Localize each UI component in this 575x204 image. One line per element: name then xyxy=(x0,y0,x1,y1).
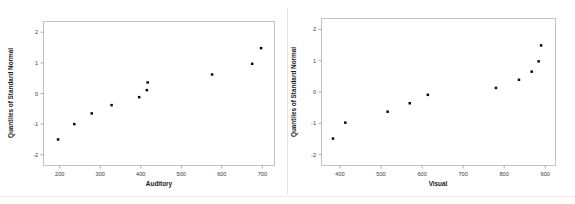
data-point-marker xyxy=(146,89,149,92)
data-point-marker xyxy=(138,96,141,99)
x-tick-label-auditory: 400 xyxy=(136,171,145,177)
data-point-marker xyxy=(495,87,498,90)
data-point-marker xyxy=(73,123,76,126)
plot-frame-visual xyxy=(322,19,556,166)
data-point-marker xyxy=(332,137,335,140)
x-tick-label-auditory: 200 xyxy=(55,171,64,177)
data-point-marker xyxy=(386,110,389,113)
data-point-marker xyxy=(540,44,543,47)
chart-panel-visual: 400500600700800900 -2-1012 Visual Quanti… xyxy=(287,0,575,204)
x-axis-title-auditory: Auditory xyxy=(146,180,173,188)
y-tick-label-visual: 2 xyxy=(313,26,316,32)
y-tick-label-visual: -2 xyxy=(311,152,316,158)
x-tick-label-visual: 700 xyxy=(458,171,467,177)
data-points-auditory xyxy=(57,47,263,141)
y-axis-ticks-auditory: -2-1012 xyxy=(33,29,43,158)
data-point-marker xyxy=(110,104,113,107)
y-tick-label-visual: 1 xyxy=(313,58,316,64)
y-axis-title-visual: Quantiles of Standard Normal xyxy=(290,47,298,137)
bottom-rule xyxy=(0,196,575,197)
y-axis-title-auditory: Quantiles of Standard Normal xyxy=(7,48,15,138)
data-point-marker xyxy=(344,121,347,124)
scatter-plot-visual: 400500600700800900 -2-1012 Visual Quanti… xyxy=(287,0,575,204)
data-point-marker xyxy=(57,138,60,141)
qq-plot-figure: 200300400500600700 -2-1012 Auditory Quan… xyxy=(0,0,575,204)
y-tick-label-auditory: 1 xyxy=(35,60,38,66)
data-point-marker xyxy=(409,102,412,105)
x-tick-label-visual: 900 xyxy=(541,171,550,177)
data-point-marker xyxy=(146,81,149,84)
data-point-marker xyxy=(537,60,540,63)
y-tick-label-visual: -1 xyxy=(311,120,316,126)
data-point-marker xyxy=(211,73,214,76)
chart-panel-auditory: 200300400500600700 -2-1012 Auditory Quan… xyxy=(0,0,287,204)
x-tick-label-visual: 800 xyxy=(500,171,509,177)
y-tick-label-auditory: 0 xyxy=(35,91,38,97)
scatter-plot-auditory: 200300400500600700 -2-1012 Auditory Quan… xyxy=(0,0,287,204)
x-tick-label-visual: 400 xyxy=(335,171,344,177)
data-point-marker xyxy=(90,112,93,115)
y-axis-ticks-visual: -2-1012 xyxy=(311,26,321,157)
x-tick-label-auditory: 700 xyxy=(258,171,267,177)
x-axis-title-visual: Visual xyxy=(429,180,448,187)
data-points-visual xyxy=(332,44,543,140)
y-tick-label-auditory: -1 xyxy=(33,121,38,127)
data-point-marker xyxy=(427,94,430,97)
data-point-marker xyxy=(518,79,521,82)
x-axis-ticks-auditory: 200300400500600700 xyxy=(55,166,267,177)
data-point-marker xyxy=(530,70,533,73)
x-tick-label-auditory: 300 xyxy=(96,171,105,177)
panel-divider xyxy=(287,8,288,194)
y-tick-label-visual: 0 xyxy=(313,89,316,95)
x-tick-label-visual: 500 xyxy=(376,171,385,177)
x-tick-label-auditory: 600 xyxy=(217,171,226,177)
y-tick-label-auditory: 2 xyxy=(35,29,38,35)
data-point-marker xyxy=(260,47,263,50)
x-tick-label-visual: 600 xyxy=(417,171,426,177)
plot-frame-auditory xyxy=(44,22,275,166)
y-tick-label-auditory: -2 xyxy=(33,152,38,158)
x-tick-label-auditory: 500 xyxy=(177,171,186,177)
data-point-marker xyxy=(251,63,254,66)
x-axis-ticks-visual: 400500600700800900 xyxy=(335,166,550,177)
